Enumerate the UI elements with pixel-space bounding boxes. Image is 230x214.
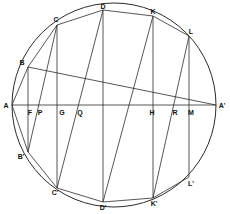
point-label-h: H bbox=[149, 109, 154, 116]
point-label-p: P bbox=[38, 109, 43, 116]
slant-K-Dp bbox=[103, 16, 153, 202]
point-label-k: K bbox=[150, 8, 155, 15]
point-label-g: G bbox=[59, 109, 64, 116]
diagram-canvas bbox=[0, 0, 230, 214]
point-label-c: C bbox=[53, 16, 58, 23]
chord-B-Ap bbox=[28, 67, 216, 105]
chord-K-L bbox=[153, 16, 189, 36]
slant-D-Cp bbox=[57, 10, 103, 188]
chord-segments bbox=[12, 10, 216, 202]
point-label-b: B bbox=[19, 59, 24, 66]
point-label-dp: D' bbox=[100, 204, 107, 211]
point-label-ap: A' bbox=[219, 102, 226, 109]
point-label-lp: L' bbox=[188, 180, 194, 187]
geometry-figure: ABCDKLA'FPGQHRMB'C'D'K'L' bbox=[0, 0, 230, 214]
chord-Kp-Lp bbox=[153, 177, 189, 198]
chord-D-K bbox=[103, 10, 153, 16]
point-label-f: F bbox=[28, 109, 32, 116]
slant-L-Kp bbox=[153, 36, 189, 198]
chord-Bp-Cp bbox=[28, 152, 57, 188]
chord-B-C bbox=[28, 25, 57, 67]
point-label-kp: K' bbox=[151, 200, 158, 207]
point-label-l: L bbox=[189, 28, 193, 35]
slant-A-B bbox=[12, 67, 28, 105]
chord-C-D bbox=[57, 10, 103, 25]
chord-Dp-Kp bbox=[103, 198, 153, 202]
chord-Cp-Dp bbox=[57, 188, 103, 202]
point-label-cp: C' bbox=[52, 189, 59, 196]
point-label-m: M bbox=[188, 109, 194, 116]
point-label-q: Q bbox=[77, 109, 82, 116]
point-label-d: D bbox=[100, 3, 105, 10]
point-label-a: A bbox=[3, 102, 8, 109]
point-label-bp: B' bbox=[18, 153, 25, 160]
point-label-r: R bbox=[172, 109, 177, 116]
